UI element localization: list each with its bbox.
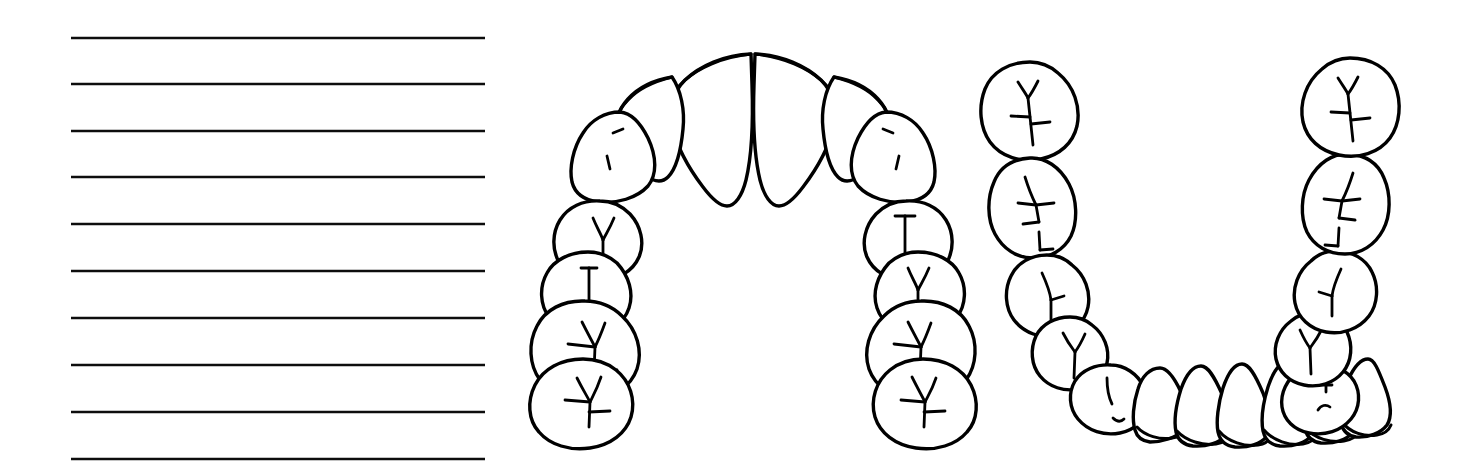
tooth-upper-right-canine — [851, 112, 935, 202]
tooth-lower-right-third-molar — [1302, 58, 1399, 156]
worksheet-page — [0, 0, 1466, 473]
tooth-upper-left-second-molar — [530, 359, 633, 449]
tooth-upper-right-second-molar — [873, 359, 976, 449]
tooth-lower-right-first-molar — [1294, 251, 1376, 333]
ruled-lines-panel — [0, 0, 1466, 473]
mandibular-arch-diagram — [981, 58, 1399, 447]
tooth-lower-left-third-molar — [981, 62, 1078, 160]
ruled-line-group — [71, 38, 485, 459]
tooth-lower-right-second-molar — [1302, 154, 1389, 254]
tooth-lower-left-second-molar — [989, 158, 1076, 258]
tooth-upper-left-canine — [571, 112, 655, 202]
maxillary-arch-diagram — [530, 54, 976, 449]
